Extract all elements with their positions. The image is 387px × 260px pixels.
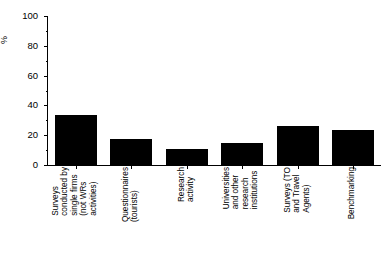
x-axis-category-label-text: Surveys (TOand TravelAgents) [283, 167, 311, 213]
x-axis-category-label: Surveysconducted bysingle firms(not WRsa… [47, 167, 103, 260]
x-axis-category-label-text: Questionnaires(tourists) [121, 167, 140, 222]
y-axis-tick-label: 60 [12, 71, 38, 81]
x-axis-category-label-text: Benchmarking [348, 167, 357, 219]
y-axis-tick-mark [44, 165, 48, 166]
x-axis-category-label-line: Benchmarking [348, 167, 357, 219]
bar-chart: % 020406080100 Surveysconducted bysingle… [0, 0, 387, 260]
x-axis-category-label: Researchactivity [158, 167, 214, 260]
x-axis-category-label: Questionnaires(tourists) [103, 167, 159, 260]
x-axis-category-label-line: research [241, 167, 250, 209]
bar [221, 143, 263, 165]
x-axis-category-label-text: Universitiesand otherresearchinstitution… [222, 167, 260, 209]
x-axis-tick-labels: Surveysconducted bysingle firms(not WRsa… [47, 167, 380, 260]
x-axis-category-label-line: activities) [89, 167, 98, 216]
x-axis-category-label-line: Questionnaires [121, 167, 130, 222]
bar [277, 126, 319, 165]
y-axis-tick-label: 80 [12, 41, 38, 51]
x-axis-category-label-line: and other [232, 167, 241, 209]
x-axis-category-label-line: Research [176, 167, 185, 202]
bar [110, 139, 152, 165]
y-axis-tick-label: 40 [12, 101, 38, 111]
bar [166, 149, 208, 165]
x-axis-category-label-line: single firms [70, 167, 79, 216]
x-axis-category-label-line: institutions [251, 167, 260, 209]
x-axis-category-label-line: Agents) [301, 167, 310, 213]
x-axis-category-label: Surveys (TOand TravelAgents) [269, 167, 325, 260]
y-axis-tick-label: 100 [12, 11, 38, 21]
bar [55, 115, 97, 165]
x-axis-category-label: Universitiesand otherresearchinstitution… [214, 167, 270, 260]
x-axis-category-label-line: (not WRs [79, 167, 88, 216]
x-axis-category-label-text: Researchactivity [176, 167, 195, 202]
x-axis-category-label-line: Universities [222, 167, 231, 209]
bar [332, 130, 374, 165]
plot-area: 020406080100 [47, 16, 381, 166]
y-axis-tick-label: 20 [12, 130, 38, 140]
y-axis-tick-label: 0 [12, 160, 38, 170]
bar-series [48, 16, 381, 165]
x-axis-category-label-text: Surveysconducted bysingle firms(not WRsa… [51, 167, 98, 216]
x-axis-category-label-line: Surveys [51, 167, 60, 216]
x-axis-category-label-line: Surveys (TO [283, 167, 292, 213]
x-axis-category-label: Benchmarking [325, 167, 381, 260]
x-axis-category-label-line: and Travel [292, 167, 301, 213]
x-axis-category-label-line: conducted by [61, 167, 70, 216]
x-axis-category-label-line: activity [186, 167, 195, 202]
x-axis-category-label-line: (tourists) [130, 167, 139, 222]
